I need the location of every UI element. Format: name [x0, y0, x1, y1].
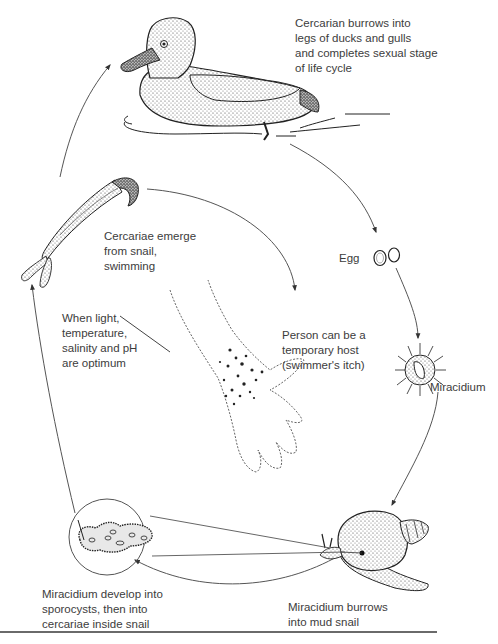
egg-stage-label: Egg: [339, 251, 359, 266]
snail-illustration: [320, 511, 428, 590]
miracidium-stage-label: Miracidium: [430, 380, 486, 395]
label-line: cercariae inside snail: [42, 617, 163, 632]
label-line: Egg: [339, 251, 359, 266]
life-cycle-diagram: Cercarian burrows into legs of ducks and…: [0, 0, 498, 644]
conditions-label: When light, temperature, salinity and pH…: [62, 311, 137, 371]
label-line: into mud snail: [288, 615, 388, 630]
label-line: Miracidium burrows: [288, 600, 388, 615]
label-line: Person can be a: [282, 328, 366, 343]
label-line: of life cycle: [295, 61, 438, 76]
label-line: sporocysts, then into: [42, 602, 163, 617]
label-line: temporary host: [282, 343, 366, 358]
label-line: Miracidium: [430, 380, 486, 395]
label-line: temperature,: [62, 326, 137, 341]
label-line: and completes sexual stage: [295, 46, 438, 61]
egg-illustration: [374, 248, 400, 266]
label-line: When light,: [62, 311, 137, 326]
label-line: Miracidium develop into: [42, 587, 163, 602]
arrow-egg-to-miracidium: [396, 268, 418, 338]
label-line: from snail,: [104, 244, 196, 259]
arrow-miracidium-to-snail: [392, 392, 438, 505]
snail-stage-label: Miracidium burrows into mud snail: [288, 600, 388, 630]
label-line: are optimum: [62, 356, 137, 371]
cercariae-stage-label: Cercariae emerge from snail, swimming: [104, 229, 196, 274]
sporocyst-illustration: [69, 499, 345, 575]
label-line: (swimmer's itch): [282, 358, 366, 373]
arrow-duck-to-egg: [290, 144, 376, 232]
label-line: swimming: [104, 259, 196, 274]
label-line: Cercarian burrows into: [295, 16, 438, 31]
duck-stage-label: Cercarian burrows into legs of ducks and…: [295, 16, 438, 76]
label-line: legs of ducks and gulls: [295, 31, 438, 46]
label-line: salinity and pH: [62, 341, 137, 356]
label-line: Cercariae emerge: [104, 229, 196, 244]
arrow-snail-to-sporocyst: [135, 555, 340, 584]
arrow-cercaria-to-duck: [60, 65, 110, 177]
human-host-label: Person can be a temporary host (swimmer'…: [282, 328, 366, 373]
hand-illustration: [170, 280, 304, 472]
sporocyst-stage-label: Miracidium develop into sporocysts, then…: [42, 587, 163, 632]
bottom-divider: [0, 631, 437, 633]
